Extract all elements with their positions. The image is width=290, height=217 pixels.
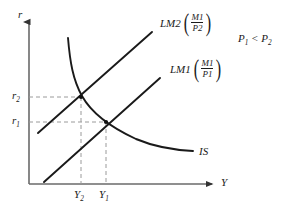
lm1-curve	[44, 78, 160, 182]
y-axis-label: r	[18, 9, 22, 20]
lm1-close-paren: )	[216, 58, 221, 79]
lm2-numerator-base: M	[191, 12, 199, 22]
lm1-numerator: M1	[200, 58, 214, 68]
lm2-name-base: LM	[160, 17, 175, 29]
lm2-close-paren: )	[206, 12, 211, 33]
lm1-numerator-sub: 1	[209, 58, 214, 68]
lm2-numerator: M1	[190, 12, 204, 22]
tick-label-y2: Y2	[74, 189, 84, 203]
lm1-name: LM1	[170, 63, 191, 75]
lm1-numerator-base: M	[201, 58, 209, 68]
lm2-denominator-sub: 2	[198, 23, 203, 33]
lm2-curve-label: LM2 ( M1 P2 )	[160, 12, 213, 33]
is-curve-label: IS	[199, 146, 208, 157]
lm1-fraction: M1 P1	[200, 58, 214, 79]
tick-label-y1: Y1	[99, 189, 109, 203]
lm1-denominator: P1	[201, 68, 213, 79]
lm1-open-paren: (	[193, 58, 198, 79]
lm2-open-paren: (	[183, 12, 188, 33]
lm2-numerator-sub: 1	[199, 12, 204, 22]
tick-label-r1-sub: 1	[16, 121, 20, 129]
lm2-name-sub: 2	[175, 17, 181, 29]
price-2-sub: 2	[268, 39, 272, 47]
lm1-denominator-sub: 1	[208, 69, 213, 79]
lm2-curve	[38, 32, 152, 133]
tick-label-r2: r2	[12, 90, 20, 104]
tick-label-r2-sub: 2	[16, 96, 20, 104]
lm1-name-base: LM	[170, 63, 185, 75]
x-axis-label: Y	[221, 177, 227, 188]
price-comparison-annotation: P1 < P2	[238, 33, 272, 47]
is-lm-figure: r Y r2 r1 Y2 Y1 IS LM2 ( M1 P2 ) LM1 ( M…	[0, 0, 290, 217]
price-relation: <	[248, 32, 261, 44]
tick-label-y2-sub: 2	[80, 195, 84, 203]
lm1-name-sub: 1	[185, 63, 191, 75]
lm1-curve-label: LM1 ( M1 P1 )	[170, 58, 223, 79]
price-1-base: P	[238, 32, 245, 44]
is-curve	[68, 38, 193, 151]
lm2-fraction: M1 P2	[190, 12, 204, 33]
lm2-name: LM2	[160, 17, 181, 29]
tick-label-r1: r1	[12, 115, 20, 129]
equilibrium-point-2	[79, 95, 83, 99]
lm2-denominator: P2	[191, 22, 203, 33]
tick-label-y1-sub: 1	[105, 195, 109, 203]
equilibrium-point-1	[104, 120, 108, 124]
